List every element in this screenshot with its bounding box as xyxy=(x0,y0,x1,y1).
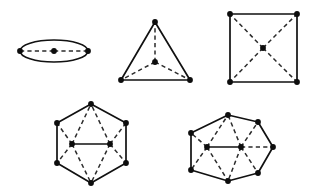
heptagon-figure-dashed-edge xyxy=(228,147,241,181)
hexagon-figure-dashed-edge xyxy=(57,123,72,144)
figure-canvas xyxy=(0,0,316,196)
triangle-figure-boundary-vertex xyxy=(187,77,193,83)
hexagon-figure-dashed-edge xyxy=(110,123,126,144)
square-figure xyxy=(227,11,300,85)
triangle-figure-boundary-vertex xyxy=(152,19,158,25)
hexagon-figure xyxy=(54,101,129,186)
hexagon-figure-boundary-vertex xyxy=(88,180,94,186)
heptagon-figure-dashed-edge xyxy=(241,147,258,173)
heptagon-figure-interior-vertex xyxy=(204,144,210,150)
triangle-figure-interior-vertex xyxy=(152,59,158,65)
heptagon-figure xyxy=(188,112,276,184)
hexagon-figure-boundary-vertex xyxy=(54,160,60,166)
hexagon-figure-dashed-edge xyxy=(110,144,126,163)
hexagon-figure-boundary-vertex xyxy=(88,101,94,107)
heptagon-figure-boundary-vertex xyxy=(188,130,194,136)
square-figure-boundary-vertex xyxy=(227,79,233,85)
hexagon-figure-boundary-vertex xyxy=(123,120,129,126)
heptagon-figure-dashed-edge xyxy=(191,133,207,147)
square-figure-interior-vertex xyxy=(260,45,266,51)
figure-board xyxy=(0,0,316,196)
heptagon-figure-dashed-edge xyxy=(228,115,241,147)
heptagon-figure-boundary-vertex xyxy=(188,167,194,173)
heptagon-figure-boundary-vertex xyxy=(225,178,231,184)
square-figure-dashed-edge xyxy=(263,48,297,82)
heptagon-figure-dashed-edge xyxy=(241,122,258,147)
lens-digon-figure-boundary-vertex xyxy=(85,48,91,54)
lens-digon-figure-boundary-vertex xyxy=(17,48,23,54)
square-figure-boundary-vertex xyxy=(294,11,300,17)
hexagon-figure-interior-vertex xyxy=(69,141,75,147)
heptagon-figure-boundary-vertex xyxy=(255,119,261,125)
hexagon-figure-interior-vertex xyxy=(107,141,113,147)
heptagon-figure-boundary-vertex xyxy=(225,112,231,118)
square-figure-dashed-edge xyxy=(230,48,263,82)
square-figure-boundary-vertex xyxy=(227,11,233,17)
heptagon-figure-boundary-vertex xyxy=(255,170,261,176)
triangle-figure-boundary-vertex xyxy=(118,77,124,83)
square-figure-dashed-edge xyxy=(230,14,263,48)
heptagon-figure-interior-vertex xyxy=(238,144,244,150)
square-figure-dashed-edge xyxy=(263,14,297,48)
triangle-figure xyxy=(118,19,193,83)
heptagon-figure-boundary-vertex xyxy=(270,144,276,150)
lens-digon-figure-interior-vertex xyxy=(51,48,57,54)
square-figure-boundary-vertex xyxy=(294,79,300,85)
hexagon-figure-boundary-vertex xyxy=(123,160,129,166)
hexagon-figure-boundary-vertex xyxy=(54,120,60,126)
heptagon-figure-dashed-edge xyxy=(191,147,207,170)
hexagon-figure-dashed-edge xyxy=(57,144,72,163)
lens-digon-figure xyxy=(17,40,91,62)
